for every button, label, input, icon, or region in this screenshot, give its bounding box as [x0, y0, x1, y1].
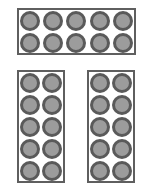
well-circle	[20, 139, 40, 159]
well-circle	[42, 117, 62, 137]
well-circle	[112, 139, 132, 159]
well-circle	[20, 95, 40, 115]
well-circle	[90, 139, 110, 159]
well-circle	[43, 33, 63, 53]
bottom-right-tray	[87, 70, 135, 183]
well-circle	[90, 95, 110, 115]
well-circle	[42, 139, 62, 159]
well-circle	[43, 11, 63, 31]
well-circle	[112, 161, 132, 181]
well-circle	[112, 95, 132, 115]
well-circle	[112, 73, 132, 93]
well-circle	[112, 117, 132, 137]
well-circle	[42, 161, 62, 181]
bottom-left-tray	[17, 70, 65, 183]
well-circle	[113, 11, 133, 31]
well-circle	[113, 33, 133, 53]
well-circle	[90, 33, 110, 53]
well-circle	[20, 11, 40, 31]
top-tray	[17, 8, 136, 55]
well-circle	[90, 73, 110, 93]
well-circle	[20, 33, 40, 53]
well-circle	[66, 11, 86, 31]
well-circle	[20, 73, 40, 93]
well-circle	[42, 73, 62, 93]
well-circle	[42, 95, 62, 115]
well-circle	[90, 11, 110, 31]
diagram-canvas	[0, 0, 144, 185]
well-circle	[20, 161, 40, 181]
well-circle	[90, 161, 110, 181]
well-circle	[20, 117, 40, 137]
well-circle	[66, 33, 86, 53]
well-circle	[90, 117, 110, 137]
